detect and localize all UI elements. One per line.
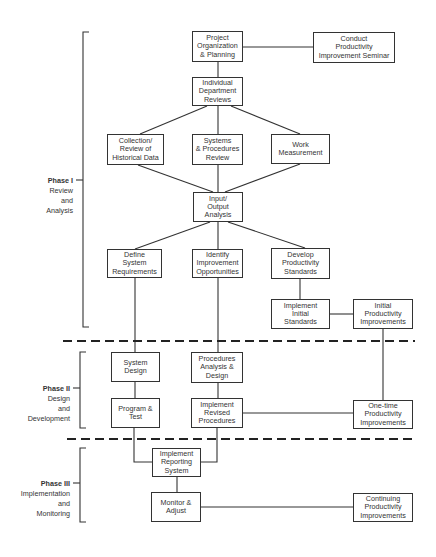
box-define-system: Define System Requirements xyxy=(107,249,162,278)
box-department-reviews: Individual Department Reviews xyxy=(192,77,243,106)
phase3-label: Phase III Implementation and Monitoring xyxy=(0,479,70,519)
box-implement-reporting: Implement Reporting System xyxy=(152,448,201,477)
phase1-description: Review and Analysis xyxy=(0,186,73,216)
box-onetime-improvements: One-time Productivity Improvements xyxy=(353,400,413,429)
box-program-test: Program & Test xyxy=(111,398,160,428)
box-project-organization: Project Organization & Planning xyxy=(192,31,243,62)
phase1-bracket xyxy=(83,32,89,327)
phase3-bracket xyxy=(80,448,86,522)
box-implement-standards: Implement Initial Standards xyxy=(271,299,330,329)
box-identify-improvement: Identify Improvement Opportunities xyxy=(192,249,243,278)
box-initial-improvements: Initial Productivity Improvements xyxy=(353,299,413,329)
box-implement-revised: Implement Revised Procedures xyxy=(191,398,243,428)
phase1-label: Phase I Review and Analysis xyxy=(0,176,73,216)
box-procedures-analysis: Procedures Analysis & Design xyxy=(191,352,243,383)
phase1-title: Phase I xyxy=(0,176,73,186)
box-continuing-improvements: Continuing Productivity Improvements xyxy=(353,493,413,522)
box-input-output: Input/ Output Analysis xyxy=(193,192,243,222)
phase2-description: Design and Development xyxy=(0,394,70,424)
phase2-bracket xyxy=(80,352,86,428)
box-system-design: System Design xyxy=(111,352,160,382)
phase2-title: Phase II xyxy=(0,384,70,394)
box-work-measurement: Work Measurement xyxy=(271,134,330,164)
phase3-description: Implementation and Monitoring xyxy=(0,489,70,519)
phase3-title: Phase III xyxy=(0,479,70,489)
box-conduct-seminar: Conduct Productivity Improvement Seminar xyxy=(313,32,395,63)
box-develop-standards: Develop Productivity Standards xyxy=(271,248,330,279)
box-monitor-adjust: Monitor & Adjust xyxy=(151,492,201,522)
productivity-improvement-flowchart: Phase I Review and Analysis Phase II Des… xyxy=(0,0,436,557)
phase2-label: Phase II Design and Development xyxy=(0,384,70,424)
box-collection-review: Collection/ Review of Historical Data xyxy=(107,134,164,165)
box-systems-procedures: Systems & Procedures Review xyxy=(192,134,243,165)
